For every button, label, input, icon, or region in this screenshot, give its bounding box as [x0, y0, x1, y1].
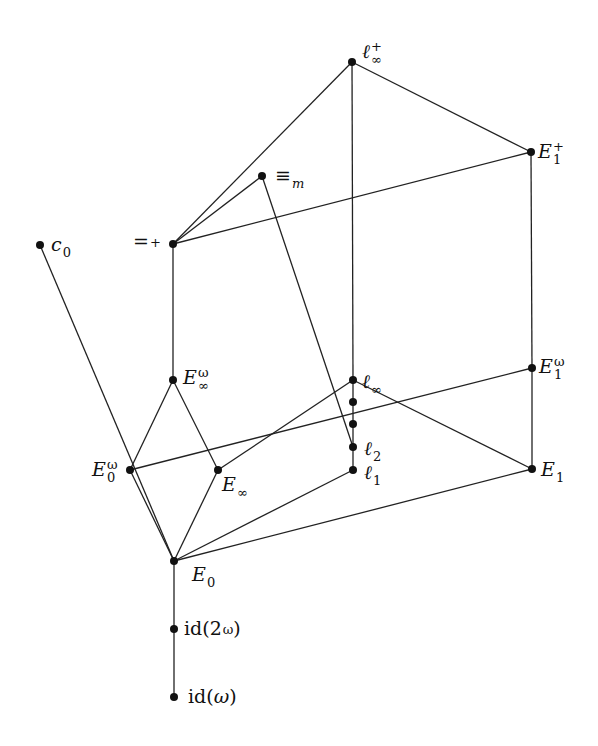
edge-equiv_m-eq_plus — [173, 176, 262, 244]
label-c0: c 0 — [51, 233, 71, 259]
edge-linf_plus-linf — [352, 62, 353, 380]
node-id_2omega — [170, 625, 178, 633]
edge-linf-Einf — [218, 380, 353, 470]
edge-linf_plus-E1_plus — [352, 62, 531, 152]
diagram-edges — [40, 62, 532, 697]
edge-E0-Einf — [174, 470, 218, 561]
label-linf: ℓ ∞ — [362, 370, 382, 396]
node-linf_plus — [348, 58, 356, 66]
label-linf_plus: ℓ+∞ — [362, 40, 382, 66]
label-Einf: E ∞ — [222, 473, 248, 499]
node-id_omega — [170, 693, 178, 701]
hasse-diagram — [0, 0, 598, 746]
node-equiv_m — [258, 172, 266, 180]
edge-equiv_m-l2 — [262, 176, 353, 447]
node-Einf — [214, 466, 222, 474]
node-l1 — [349, 466, 357, 474]
diagram-nodes — [36, 58, 536, 701]
label-id_omega: id(ω) — [188, 687, 237, 706]
node-E0 — [170, 557, 178, 565]
label-E0_omega: Eω0 — [92, 458, 117, 484]
node-E0_omega — [126, 466, 134, 474]
label-E1_plus: E+1 — [538, 140, 564, 166]
edge-Einf_omega-E0_omega — [130, 380, 173, 470]
label-E1_omega: Eω1 — [539, 355, 564, 381]
node-Einf_omega — [169, 376, 177, 384]
edge-linf_plus-eq_plus — [173, 62, 352, 244]
node-dot1 — [349, 398, 357, 406]
label-E1: E 1 — [541, 458, 564, 484]
edge-E1_plus-E1_omega — [531, 152, 532, 368]
node-E1_plus — [527, 148, 535, 156]
edge-E0-E0_omega — [130, 470, 174, 561]
label-Einf_omega: Eω∞ — [183, 366, 209, 392]
node-linf — [349, 376, 357, 384]
label-E0: E 0 — [192, 563, 215, 589]
node-dot2 — [349, 420, 357, 428]
edge-E0-c0 — [40, 245, 174, 561]
label-equiv_m: ≡ m — [275, 164, 304, 190]
label-eq_plus: =+ — [133, 232, 161, 251]
node-l2 — [349, 443, 357, 451]
label-id_2omega: id(2ω ) — [184, 619, 241, 638]
label-l1: ℓ 1 — [364, 461, 381, 487]
node-c0 — [36, 241, 44, 249]
edge-E0-l1 — [174, 470, 353, 561]
node-eq_plus — [169, 240, 177, 248]
edge-Einf_omega-Einf — [173, 380, 218, 470]
node-E1 — [528, 465, 536, 473]
node-E1_omega — [528, 364, 536, 372]
